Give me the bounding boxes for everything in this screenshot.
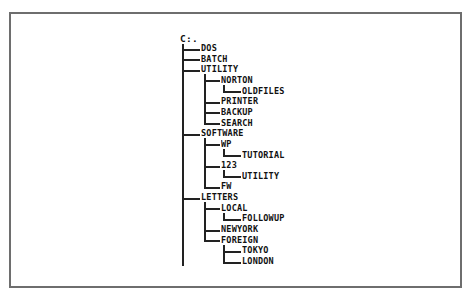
directory-node: TOKYO [242,246,269,256]
directory-node: WP [221,140,232,150]
directory-node: TUTORIAL [242,151,285,161]
trunk-line [182,44,184,266]
directory-node: PRINTER [221,97,258,107]
diagram-frame [9,12,462,288]
root-directory-label: C:. [180,34,198,44]
connector-line [204,144,220,146]
directory-node: DOS [201,44,217,54]
branch-line [204,74,206,124]
directory-node: BACKUP [221,108,253,118]
directory-node: NEWYORK [221,225,258,235]
connector-line [182,49,200,51]
connector-line [204,208,220,210]
connector-line [223,155,241,157]
connector-line [223,251,241,253]
branch-line [223,245,225,263]
branch-line [204,138,206,188]
directory-node: LONDON [242,257,274,267]
branch-line [223,149,225,156]
connector-line [204,240,220,242]
directory-node: UTILITY [242,172,279,182]
connector-line [204,80,220,82]
connector-line [204,123,220,125]
connector-line [182,198,200,200]
directory-node: UTILITY [201,65,238,75]
connector-line [223,91,241,93]
connector-line [223,176,241,178]
connector-line [204,187,220,189]
directory-node: FOLLOWUP [242,214,285,224]
directory-node: 123 [221,161,237,171]
connector-line [182,59,200,61]
directory-node: SOFTWARE [201,129,244,139]
connector-line [204,230,220,232]
directory-node: FW [221,182,232,192]
branch-line [204,202,206,241]
connector-line [204,166,220,168]
connector-line [182,70,200,72]
connector-line [182,134,200,136]
directory-node: LETTERS [201,193,238,203]
connector-line [204,102,220,104]
directory-node: NORTON [221,76,253,86]
connector-line [223,219,241,221]
connector-line [223,262,241,264]
branch-line [223,170,225,177]
branch-line [223,85,225,92]
connector-line [204,112,220,114]
branch-line [223,213,225,220]
